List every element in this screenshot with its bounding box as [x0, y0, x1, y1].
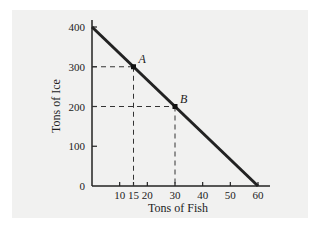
y-tick-label: 100	[69, 140, 86, 152]
x-tick-label: 15	[128, 189, 140, 201]
dashed-guides	[92, 67, 175, 186]
x-axis-label: Tons of Fish	[148, 201, 208, 215]
x-tick-label: 40	[197, 189, 209, 201]
point-label: A	[138, 52, 147, 66]
ppf-chart: 0100200300400 10152030405060 AB Tons of …	[0, 0, 319, 229]
point-marker	[173, 104, 178, 109]
point-marker	[131, 64, 136, 69]
x-tick-label: 10	[114, 189, 126, 201]
y-tick-label: 200	[69, 101, 86, 113]
x-tick-label: 50	[225, 189, 237, 201]
x-tick-label: 20	[142, 189, 154, 201]
point-label: B	[180, 92, 188, 106]
y-tick-label: 400	[69, 21, 86, 33]
y-tick-label: 0	[80, 180, 86, 192]
y-axis-label: Tons of Ice	[49, 79, 63, 133]
x-ticks: 10152030405060	[114, 182, 264, 201]
y-tick-label: 300	[69, 61, 86, 73]
x-tick-label: 30	[170, 189, 182, 201]
points: AB	[131, 52, 188, 109]
x-tick-label: 60	[253, 189, 265, 201]
